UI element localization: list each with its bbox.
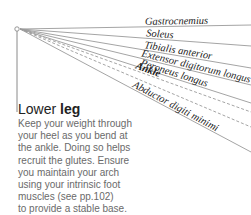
- leader-line: [20, 25, 251, 29]
- body-line: your heel as you bend at: [18, 130, 178, 142]
- heading-light: Lower: [18, 101, 60, 117]
- body-line: to provide a stable base.: [18, 203, 178, 215]
- body-line: the ankle. Doing so helps: [18, 142, 178, 154]
- muscle-labels: GastrocnemiusSoleusTibialis anteriorExte…: [130, 15, 251, 134]
- body-line: muscles (see pp.102): [18, 191, 178, 203]
- body-line: using your intrinsic foot: [18, 179, 178, 191]
- leader-line: [20, 29, 251, 68]
- body-line: Keep your weight through: [18, 118, 178, 130]
- heading-bold: leg: [60, 101, 80, 117]
- origin-marker-icon: [15, 27, 19, 31]
- section-body: Keep your weight through your heel as yo…: [18, 118, 178, 215]
- section-heading: Lower leg: [18, 101, 80, 117]
- muscle-label: Gastrocnemius: [145, 15, 208, 27]
- muscle-label: Soleus: [146, 27, 174, 40]
- body-line: recruit the glutes. Ensure: [18, 155, 178, 167]
- body-line: you maintain your arch: [18, 167, 178, 179]
